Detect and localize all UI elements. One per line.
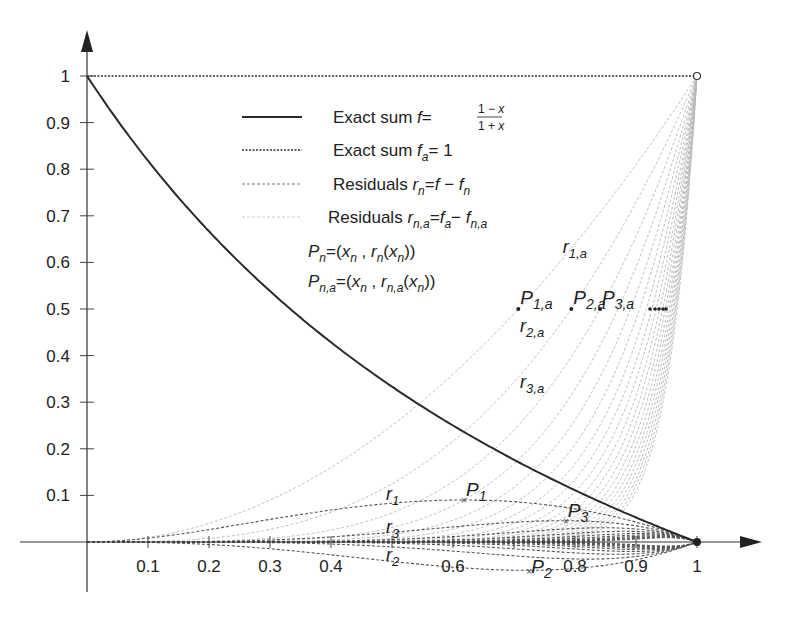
point-label: P1,a [520, 287, 552, 312]
y-tick-label: 0.5 [46, 300, 70, 319]
fraction-numerator: 1 − x [478, 102, 505, 116]
curve-label: r3,a [520, 372, 544, 396]
filled-endpoint-marker [693, 538, 701, 546]
legend-label-exact-sum-a: Exact sum fa= 1 [333, 141, 453, 164]
legend-label-residual-a: Residuals rn,a=fa− fn,a [328, 208, 487, 231]
legend: Exact sum f= 1 − x 1 + x Exact sum fa= 1… [242, 102, 505, 295]
y-tick-label: 0.9 [46, 114, 70, 133]
x-tick-label: 0.3 [258, 557, 282, 576]
y-tick-label: 0.1 [46, 486, 70, 505]
y-tick-label: 1 [61, 67, 70, 86]
x-tick-label: 0.4 [319, 557, 343, 576]
open-endpoint-marker [694, 73, 701, 80]
curve-label: r1 [386, 484, 399, 508]
y-tick-label: 0.6 [46, 253, 70, 272]
y-tick-label: 0.4 [46, 347, 70, 366]
x-tick-label: 1 [692, 557, 701, 576]
x-tick-label: 0.2 [197, 557, 221, 576]
point-cluster [648, 307, 668, 311]
x-tick-label: 0.8 [563, 557, 587, 576]
point-label: P2 [531, 556, 552, 581]
curve-label: r3 [386, 517, 400, 541]
legend-label-residual: Residuals rn=f − fn [333, 175, 471, 198]
x-axis-arrow-icon [740, 536, 762, 548]
x-tick-label: 0.6 [441, 557, 465, 576]
point-definition-pn: Pn=(xn , rn(xn)) [308, 242, 416, 265]
y-tick-label: 0.2 [46, 440, 70, 459]
x-tick-label: 0.1 [136, 557, 160, 576]
curve-label: r2,a [520, 316, 544, 340]
x-tick-label: 0.9 [624, 557, 648, 576]
point-definition-pna: Pn,a=(xn , rn,a(xn)) [308, 272, 436, 295]
legend-label-exact-sum: Exact sum f= [333, 108, 432, 127]
point-label: P3,a [602, 287, 634, 312]
y-tick-label: 0.7 [46, 207, 70, 226]
curve-label: r2 [386, 545, 400, 569]
chart: 0.10.20.30.40.60.80.91 0.10.20.30.40.50.… [0, 0, 794, 619]
fraction-denominator: 1 + x [478, 119, 505, 133]
y-tick-label: 0.8 [46, 160, 70, 179]
y-axis-arrow-icon [81, 30, 93, 52]
y-tick-label: 0.3 [46, 393, 70, 412]
curve-label: r1,a [563, 237, 587, 261]
